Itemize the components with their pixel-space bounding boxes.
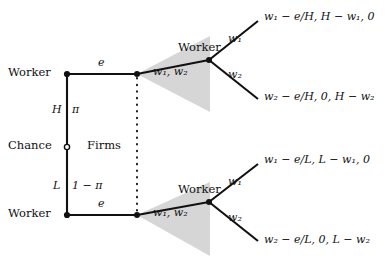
payoff-top-lower: w₂ − e/H, 0, H − w₂ [264,91,374,102]
branch-label-low-type: L [53,180,60,191]
node-label-worker-low-wage: Worker [178,184,221,196]
branch-label-accept-w2-top: w₂ [228,69,242,80]
branch-label-offers-top: w₁, w₂ [153,66,188,77]
payoff-bottom-lower: w₂ − e/L, 0, L − w₂ [264,234,370,245]
branch-label-accept-w1-bottom: w₁ [228,176,242,187]
branch-label-low-probability: 1 − π [72,180,102,191]
game-tree-diagram: Worker Chance Worker Firms Worker Worker… [0,0,390,280]
branch-label-high-type: H [52,104,62,115]
node-worker-high [64,71,70,77]
node-worker-high-wage [206,57,212,63]
branch-label-effort-top: e [98,57,105,68]
payoff-top-upper: w₁ − e/H, H − w₁, 0 [264,11,374,22]
node-chance [64,144,69,149]
node-firms-bottom [134,212,140,218]
node-worker-low [64,212,70,218]
node-label-worker-high: Worker [8,67,51,79]
branch-label-high-probability: π [72,104,79,115]
node-label-chance: Chance [8,140,52,152]
branch-label-accept-w2-bottom: w₂ [228,212,242,223]
node-firms-top [134,71,140,77]
payoff-bottom-upper: w₁ − e/L, L − w₁, 0 [264,154,370,165]
branch-label-accept-w1-top: w₁ [228,33,242,44]
branch-label-offers-bottom: w₁, w₂ [153,207,188,218]
node-label-firms: Firms [87,140,121,152]
node-worker-low-wage [206,199,212,205]
node-label-worker-low: Worker [8,208,51,220]
node-label-worker-high-wage: Worker [178,42,221,54]
branch-label-effort-bottom: e [98,198,105,209]
